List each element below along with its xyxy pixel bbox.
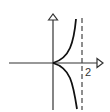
graph-canvas: 2 bbox=[0, 0, 110, 112]
y-axis-arrow-icon bbox=[49, 14, 58, 20]
asymptote-label: 2 bbox=[85, 66, 91, 78]
x-axis-arrow-icon bbox=[97, 59, 103, 68]
curve-upper-branch bbox=[53, 19, 76, 63]
curve-lower-branch bbox=[53, 63, 77, 109]
